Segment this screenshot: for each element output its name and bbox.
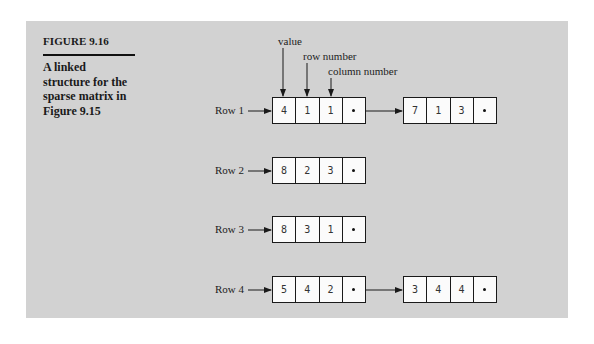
- value-cell: 7: [404, 98, 427, 123]
- column-number-cell: 1: [320, 217, 343, 242]
- matrix-node: 8 3 1: [272, 216, 366, 243]
- next-pointer-cell: [343, 98, 365, 123]
- pointer-dot-icon: [352, 288, 355, 291]
- matrix-node: 3 4 4: [403, 276, 497, 303]
- pointer-dot-icon: [352, 109, 355, 112]
- row-label: Row 1: [215, 104, 244, 116]
- null-dot-icon: [483, 288, 486, 291]
- null-dot-icon: [352, 169, 355, 172]
- row-number-cell: 4: [296, 277, 319, 302]
- null-pointer-cell: [343, 217, 365, 242]
- null-dot-icon: [352, 228, 355, 231]
- row-number-cell: 2: [296, 158, 319, 183]
- column-number-cell: 2: [320, 277, 343, 302]
- row-number-cell: 4: [427, 277, 450, 302]
- matrix-node: 4 1 1: [272, 97, 366, 124]
- value-cell: 5: [273, 277, 296, 302]
- value-cell: 3: [404, 277, 427, 302]
- column-number-cell: 4: [451, 277, 474, 302]
- row-number-cell: 1: [296, 98, 319, 123]
- row-number-cell: 3: [296, 217, 319, 242]
- column-number-cell: 3: [451, 98, 474, 123]
- value-cell: 8: [273, 217, 296, 242]
- null-pointer-cell: [474, 277, 496, 302]
- matrix-node: 5 4 2: [272, 276, 366, 303]
- row-label: Row 3: [215, 223, 244, 235]
- matrix-node: 7 1 3: [403, 97, 497, 124]
- row-label: Row 4: [215, 283, 244, 295]
- value-cell: 8: [273, 158, 296, 183]
- row-label: Row 2: [215, 164, 244, 176]
- column-number-cell: 1: [320, 98, 343, 123]
- null-dot-icon: [483, 109, 486, 112]
- null-pointer-cell: [474, 98, 496, 123]
- row-number-cell: 1: [427, 98, 450, 123]
- value-cell: 4: [273, 98, 296, 123]
- null-pointer-cell: [343, 158, 365, 183]
- matrix-node: 8 2 3: [272, 157, 366, 184]
- column-number-cell: 3: [320, 158, 343, 183]
- next-pointer-cell: [343, 277, 365, 302]
